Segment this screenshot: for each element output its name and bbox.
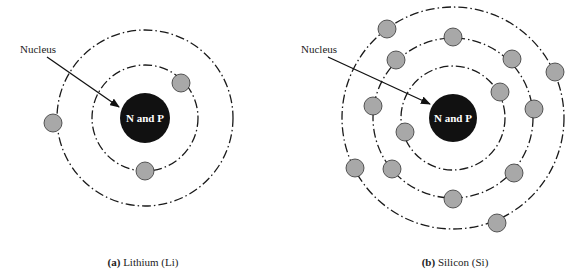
- electron: [387, 51, 405, 69]
- electron: [364, 97, 382, 115]
- electron: [444, 190, 462, 208]
- atomic-structure-figure: N and P N and P Nucleus Nucleus (a) Lith…: [0, 0, 583, 279]
- electron: [491, 83, 509, 101]
- nucleus-pointer-label-lithium: Nucleus: [20, 43, 56, 55]
- nucleus-pointer-arrow: [328, 57, 430, 104]
- electron: [546, 63, 564, 81]
- nucleus-label: N and P: [126, 112, 164, 124]
- caption-lithium: (a) Lithium (Li): [108, 256, 179, 268]
- bohr-model-diagram: N and P N and P: [0, 0, 583, 279]
- caption-text-a: Lithium (Li): [120, 256, 178, 268]
- electron: [488, 214, 506, 232]
- electron: [444, 28, 462, 46]
- electron: [44, 114, 62, 132]
- electron: [503, 50, 521, 68]
- electron: [505, 164, 523, 182]
- caption-text-b: Silicon (Si): [435, 256, 488, 268]
- caption-silicon: (b) Silicon (Si): [422, 256, 489, 268]
- caption-letter-a: (a): [108, 256, 121, 268]
- electron: [383, 160, 401, 178]
- electron: [378, 20, 396, 38]
- nucleus-pointer-label-silicon: Nucleus: [301, 43, 337, 55]
- nucleus-pointer-arrow: [47, 57, 119, 107]
- electron: [136, 162, 154, 180]
- caption-letter-b: (b): [422, 256, 435, 268]
- nucleus-label: N and P: [434, 112, 472, 124]
- electron: [396, 123, 414, 141]
- electron: [346, 159, 364, 177]
- lithium-atom-panel: N and P: [44, 30, 233, 206]
- electron: [172, 74, 190, 92]
- electron: [525, 100, 543, 118]
- silicon-atom-panel: N and P: [328, 7, 564, 232]
